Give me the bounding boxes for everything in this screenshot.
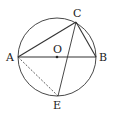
label-a: A (5, 51, 15, 64)
segment-ce (58, 22, 76, 96)
center-point-o (56, 56, 59, 59)
label-b: B (99, 51, 107, 64)
segment-ae-dashed (18, 57, 58, 96)
label-c: C (73, 7, 81, 20)
segment-cb (76, 22, 96, 57)
circle-figure: A B C E O (0, 0, 117, 115)
segment-ac (18, 22, 76, 57)
label-o: O (53, 43, 62, 56)
geometry-diagram: A B C E O (0, 0, 117, 115)
label-e: E (53, 99, 61, 112)
